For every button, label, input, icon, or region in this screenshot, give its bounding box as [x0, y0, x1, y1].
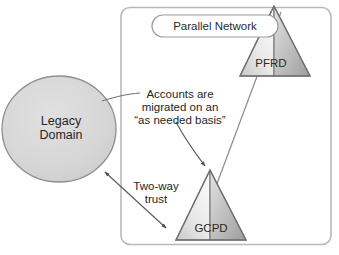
legacy-domain-label: Legacy Domain: [11, 114, 111, 142]
accounts-migration-note: Accounts are migrated on an “as needed b…: [122, 88, 238, 127]
two-way-trust-note: Two-way trust: [116, 180, 196, 206]
gcpd-node-label: GCPD: [186, 222, 236, 235]
parallel-network-label: Parallel Network: [162, 20, 268, 33]
pfrd-node-label: PFRD: [248, 57, 294, 70]
diagram-canvas: Parallel Network Legacy Domain Accounts …: [0, 0, 339, 255]
